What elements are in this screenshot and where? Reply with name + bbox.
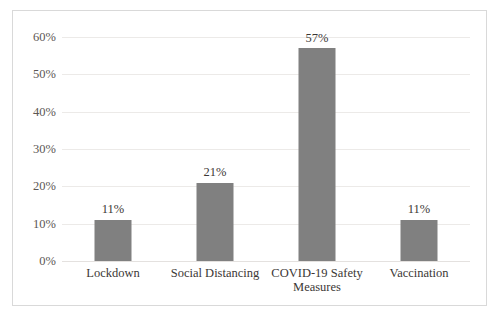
gridline-axis-baseline [62,261,470,262]
bar-slot-covid-19-safety-measures: 57% [266,37,368,261]
bar-chart-figure: 60% 50% 40% 30% 20% 10% 0% 11% 21% 57% 1… [0,0,500,320]
y-tick-label-50: 50% [12,68,56,81]
y-tick-label-0: 0% [12,255,56,268]
bar-covid-19-safety-measures[interactable] [299,48,336,261]
bar-lockdown[interactable] [95,220,132,261]
y-tick-label-20: 20% [12,180,56,193]
bar-slot-lockdown: 11% [62,37,164,261]
bar-value-social-distancing: 21% [204,166,227,179]
bar-value-vaccination: 11% [408,203,430,216]
x-label-social-distancing: Social Distancing [164,266,266,280]
bar-value-covid-19-safety-measures: 57% [306,32,329,45]
y-tick-label-60: 60% [12,31,56,44]
y-tick-label-30: 30% [12,143,56,156]
bar-vaccination[interactable] [401,220,438,261]
bar-social-distancing[interactable] [197,183,234,261]
x-label-vaccination: Vaccination [368,266,470,280]
x-label-covid-19-safety-measures-line-1: COVID-19 Safety [266,266,368,280]
y-axis-tick-labels: 60% 50% 40% 30% 20% 10% 0% [0,37,56,261]
x-label-covid-19-safety-measures-line-2: Measures [266,280,368,294]
bar-slot-social-distancing: 21% [164,37,266,261]
x-axis-category-labels: Lockdown Social Distancing COVID-19 Safe… [62,266,470,306]
bar-value-lockdown: 11% [102,203,124,216]
y-tick-label-10: 10% [12,218,56,231]
x-label-vaccination-line-1: Vaccination [368,266,470,280]
x-label-social-distancing-line-1: Social Distancing [164,266,266,280]
bar-series-group: 11% 21% 57% 11% [62,37,470,261]
x-label-covid-19-safety-measures: COVID-19 Safety Measures [266,266,368,294]
bar-slot-vaccination: 11% [368,37,470,261]
x-label-lockdown: Lockdown [62,266,164,280]
x-label-lockdown-line-1: Lockdown [62,266,164,280]
y-tick-label-40: 40% [12,106,56,119]
